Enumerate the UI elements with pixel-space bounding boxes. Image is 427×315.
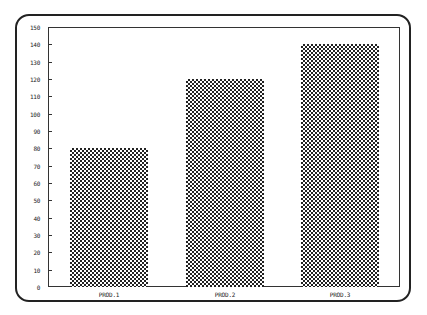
- y-tick-mark: [48, 235, 52, 236]
- y-tick-label: 50: [14, 197, 40, 204]
- y-tick-label: 20: [14, 249, 40, 256]
- y-tick-label: 150: [14, 24, 40, 31]
- y-tick-label: 130: [14, 58, 40, 65]
- x-category-label: PROD.3: [310, 291, 370, 298]
- y-tick-mark: [48, 62, 52, 63]
- y-tick-mark: [48, 252, 52, 253]
- y-tick-mark: [48, 183, 52, 184]
- bar-prod1: [70, 148, 148, 287]
- y-tick-mark: [48, 114, 52, 115]
- y-tick-label: 60: [14, 180, 40, 187]
- y-tick-label: 90: [14, 128, 40, 135]
- y-tick-label: 0: [14, 284, 40, 291]
- y-tick-label: 80: [14, 145, 40, 152]
- x-category-label: PROD.1: [79, 291, 139, 298]
- x-category-label: PROD.2: [195, 291, 255, 298]
- y-tick-mark: [48, 148, 52, 149]
- y-tick-mark: [48, 218, 52, 219]
- y-tick-mark: [48, 270, 52, 271]
- bar-prod2: [186, 79, 264, 287]
- y-tick-label: 30: [14, 232, 40, 239]
- y-tick-label: 100: [14, 110, 40, 117]
- y-tick-label: 120: [14, 76, 40, 83]
- bar-prod3: [301, 44, 379, 287]
- y-tick-label: 10: [14, 266, 40, 273]
- y-tick-label: 70: [14, 162, 40, 169]
- y-tick-label: 110: [14, 93, 40, 100]
- y-tick-mark: [48, 166, 52, 167]
- y-tick-mark: [48, 131, 52, 132]
- y-tick-mark: [48, 96, 52, 97]
- y-tick-mark: [48, 200, 52, 201]
- y-tick-label: 140: [14, 41, 40, 48]
- y-tick-mark: [48, 79, 52, 80]
- y-tick-mark: [48, 44, 52, 45]
- y-tick-label: 40: [14, 214, 40, 221]
